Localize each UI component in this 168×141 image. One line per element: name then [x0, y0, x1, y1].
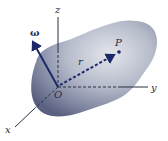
z-axis-label: z	[54, 4, 61, 15]
y-axis-label: y	[150, 82, 157, 93]
rigid-body	[31, 20, 157, 116]
rigid-body-diagram: z y x ω r P O	[0, 0, 168, 141]
x-axis-label: x	[5, 124, 11, 135]
origin-label: O	[54, 89, 62, 100]
p-label: P	[114, 37, 122, 48]
omega-label: ω	[30, 27, 40, 38]
point-p	[117, 50, 121, 54]
x-axis	[15, 109, 34, 127]
